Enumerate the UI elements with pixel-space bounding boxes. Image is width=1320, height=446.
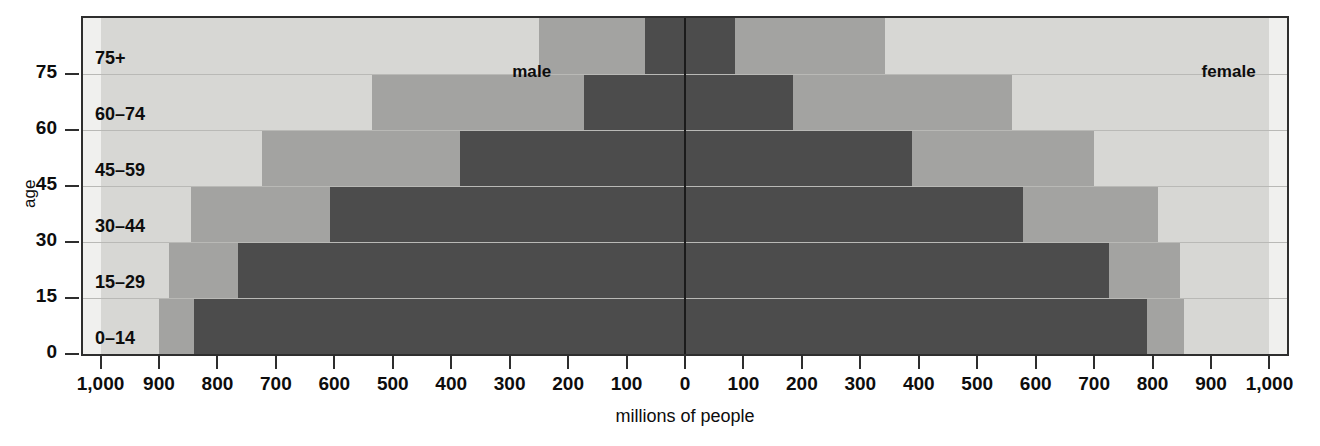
x-axis-tick-label: 500 (377, 373, 409, 395)
bar-segment-male-dark (584, 74, 685, 130)
x-axis-tick-label: 900 (143, 373, 175, 395)
x-axis-tick-label: 400 (435, 373, 467, 395)
x-axis-tick-mark (859, 356, 861, 369)
age-band-label: 45–59 (95, 160, 145, 181)
x-axis-tick-label: 700 (260, 373, 292, 395)
x-axis-tick-label: 1,000 (77, 373, 125, 395)
y-axis-tick-label: 45 (11, 173, 57, 195)
x-axis-tick-mark (275, 356, 277, 369)
x-axis-tick-mark (976, 356, 978, 369)
bar-segment-male-dark (645, 18, 685, 74)
bar-segment-male-dark (330, 186, 685, 242)
age-band-label: 75+ (95, 48, 126, 69)
x-axis-tick-mark (216, 356, 218, 369)
x-axis-tick-label: 100 (728, 373, 760, 395)
x-axis-tick-mark (918, 356, 920, 369)
y-axis-tick-label: 0 (11, 341, 57, 363)
bar-segment-male-dark (460, 130, 685, 186)
y-axis-tick-mark (65, 241, 79, 243)
x-axis-tick-mark (392, 356, 394, 369)
x-axis-tick-mark (158, 356, 160, 369)
x-axis-tick-mark (333, 356, 335, 369)
x-axis-tick-label: 1,000 (1246, 373, 1294, 395)
x-axis-tick-mark (1210, 356, 1212, 369)
x-axis-tick-label: 600 (318, 373, 350, 395)
x-axis-title: millions of people (615, 406, 754, 427)
bar-segment-female-dark (685, 130, 912, 186)
x-axis-tick-mark (509, 356, 511, 369)
x-axis-tick-mark (684, 356, 686, 369)
x-axis-tick-mark (1093, 356, 1095, 369)
y-axis-tick-label: 75 (11, 61, 57, 83)
y-axis-tick-mark (65, 73, 79, 75)
age-band-label: 0–14 (95, 328, 135, 349)
x-axis-tick-label: 800 (202, 373, 234, 395)
bar-segment-female-dark (685, 298, 1147, 354)
x-axis-tick-mark (567, 356, 569, 369)
bar-segment-female-dark (685, 186, 1023, 242)
age-band-label: 30–44 (95, 216, 145, 237)
x-axis-tick-mark (100, 356, 102, 369)
bar-segment-male-dark (238, 242, 685, 298)
x-axis-tick-mark (1268, 356, 1270, 369)
x-axis-tick-mark (626, 356, 628, 369)
x-axis-tick-mark (742, 356, 744, 369)
plot-area: 0–1415–2930–4445–5960–7475+ male female (81, 16, 1289, 356)
x-axis-tick-label: 600 (1020, 373, 1052, 395)
x-axis-tick-mark (1035, 356, 1037, 369)
x-axis-tick-label: 500 (961, 373, 993, 395)
x-axis-tick-label: 200 (786, 373, 818, 395)
y-axis-tick-mark (65, 185, 79, 187)
bar-segment-female-dark (685, 74, 793, 130)
x-axis-tick-label: 300 (494, 373, 526, 395)
y-axis-tick-label: 60 (11, 117, 57, 139)
x-axis-tick-label: 300 (844, 373, 876, 395)
chart-canvas: age 01530456075 0–1415–2930–4445–5960–74… (0, 0, 1320, 446)
x-axis-tick-label: 900 (1195, 373, 1227, 395)
bar-segment-female-dark (685, 18, 735, 74)
bar-segment-female-dark (685, 242, 1109, 298)
x-axis-tick-label: 400 (903, 373, 935, 395)
x-axis-tick-label: 800 (1137, 373, 1169, 395)
legend-female: female (1201, 62, 1255, 82)
age-band-label: 15–29 (95, 272, 145, 293)
y-axis-tick-mark (65, 353, 79, 355)
x-axis-tick-label: 200 (552, 373, 584, 395)
bar-segment-male-dark (194, 298, 685, 354)
x-axis-tick-mark (1152, 356, 1154, 369)
zero-axis-line (684, 18, 686, 354)
y-axis-tick-mark (65, 297, 79, 299)
x-axis-tick-label: 100 (611, 373, 643, 395)
x-axis-tick-mark (450, 356, 452, 369)
x-axis-tick-label: 700 (1078, 373, 1110, 395)
y-axis-tick-label: 15 (11, 285, 57, 307)
x-axis-tick-label: 0 (680, 373, 691, 395)
y-axis-tick-mark (65, 129, 79, 131)
legend-male: male (512, 62, 551, 82)
x-axis-tick-mark (801, 356, 803, 369)
age-band-label: 60–74 (95, 104, 145, 125)
y-axis-tick-label: 30 (11, 229, 57, 251)
